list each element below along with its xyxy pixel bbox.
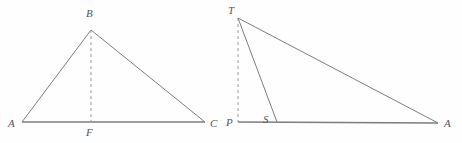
vertex-label-T: T bbox=[228, 5, 234, 16]
left-triangle-group bbox=[22, 30, 205, 122]
edge-TA bbox=[238, 18, 438, 123]
vertex-label-F: F bbox=[86, 127, 93, 138]
right-triangle-group bbox=[238, 18, 438, 123]
geometry-figure: A B C F T P A S bbox=[0, 0, 462, 143]
vertex-label-C: C bbox=[210, 118, 217, 129]
edge-AB bbox=[22, 30, 91, 122]
vertex-label-P: P bbox=[226, 117, 233, 128]
cevian-TS bbox=[238, 18, 277, 122]
edge-BC bbox=[91, 30, 205, 122]
vertex-label-B: B bbox=[86, 8, 93, 19]
vertex-label-A-left: A bbox=[8, 118, 15, 129]
vertex-label-S: S bbox=[263, 114, 269, 125]
vertex-label-A-right: A bbox=[444, 118, 451, 129]
